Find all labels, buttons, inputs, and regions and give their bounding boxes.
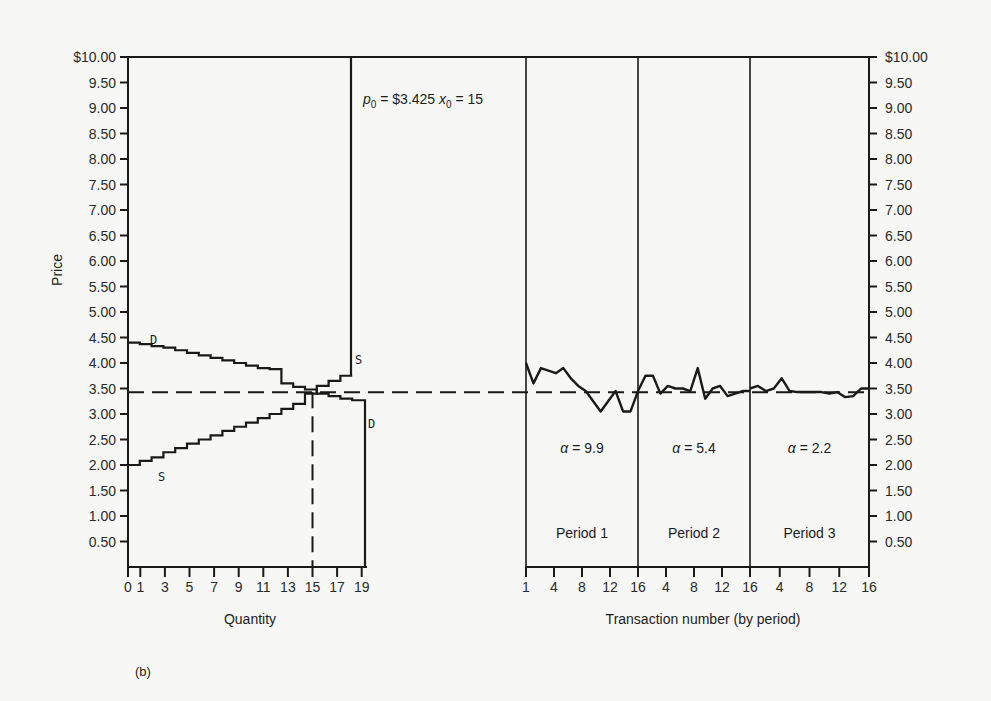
left-tick-label: 5.00 [89, 304, 116, 320]
transaction-tick-label: 1 [522, 579, 530, 595]
right-tick-label: 4.50 [885, 330, 912, 346]
transaction-price-series [526, 363, 869, 411]
left-tick-label: 1.00 [89, 508, 116, 524]
transaction-tick-label: 8 [578, 579, 586, 595]
left-tick-label: 6.00 [89, 253, 116, 269]
chart-frame [128, 57, 877, 567]
transaction-x-axis: 1481216481216481216 [522, 567, 877, 595]
right-tick-label: 7.00 [885, 202, 912, 218]
quantity-tick-label: 9 [235, 579, 243, 595]
transaction-tick-label: 4 [662, 579, 670, 595]
left-tick-label: 6.50 [89, 228, 116, 244]
supply-demand-curves [128, 57, 869, 567]
left-tick-label: $10.00 [73, 49, 116, 65]
right-tick-label: 5.50 [885, 279, 912, 295]
right-tick-label: 4.00 [885, 355, 912, 371]
transaction-tick-label: 12 [714, 579, 730, 595]
figure-caption: (b) [135, 664, 151, 679]
quantity-tick-label: 15 [305, 579, 321, 595]
left-tick-label: 5.50 [89, 279, 116, 295]
transaction-tick-label: 16 [742, 579, 758, 595]
right-tick-label: 9.00 [885, 100, 912, 116]
quantity-tick-label: 3 [161, 579, 169, 595]
left-tick-label: 9.50 [89, 75, 116, 91]
quantity-tick-label: 1 [136, 579, 144, 595]
period-3-alpha: α = 2.2 [788, 440, 832, 456]
quantity-tick-label: 11 [256, 579, 271, 595]
left-tick-label: 4.50 [89, 330, 116, 346]
quantity-tick-label: 7 [210, 579, 218, 595]
period-3-label: Period 3 [783, 525, 835, 541]
quantity-tick-label: 19 [354, 579, 370, 595]
right-tick-label: 6.00 [885, 253, 912, 269]
left-tick-label: 9.00 [89, 100, 116, 116]
left-tick-label: 2.00 [89, 457, 116, 473]
left-tick-label: 4.00 [89, 355, 116, 371]
transaction-tick-label: 4 [550, 579, 558, 595]
quantity-tick-label: 0 [124, 579, 132, 595]
right-tick-label: 3.00 [885, 406, 912, 422]
transaction-tick-label: 16 [861, 579, 877, 595]
period-1-label: Period 1 [556, 525, 608, 541]
right-tick-label: 1.00 [885, 508, 912, 524]
transaction-tick-label: 12 [602, 579, 618, 595]
right-tick-label: 8.50 [885, 126, 912, 142]
period-2-alpha: α = 5.4 [672, 440, 716, 456]
period-1-trace [526, 363, 638, 411]
right-y-axis: $10.009.509.008.508.007.507.006.506.005.… [869, 49, 928, 550]
chart-labels: QuantityTransaction number (by period)Pr… [49, 91, 836, 627]
price-axis-title: Price [49, 254, 65, 286]
transaction-axis-title: Transaction number (by period) [606, 611, 801, 627]
supply-label-right: S [355, 353, 362, 367]
left-tick-label: 7.50 [89, 177, 116, 193]
left-tick-label: 3.00 [89, 406, 116, 422]
left-tick-label: 8.50 [89, 126, 116, 142]
right-tick-label: 0.50 [885, 534, 912, 550]
period-2-label: Period 2 [668, 525, 720, 541]
period-1-alpha: α = 9.9 [560, 440, 604, 456]
quantity-tick-label: 5 [186, 579, 194, 595]
right-tick-label: $10.00 [885, 49, 928, 65]
left-tick-label: 3.50 [89, 381, 116, 397]
left-y-axis: $10.009.509.008.508.007.507.006.506.005.… [73, 49, 128, 550]
right-tick-label: 9.50 [885, 75, 912, 91]
supply-label-bottom: S [158, 470, 165, 484]
transaction-tick-label: 16 [630, 579, 646, 595]
left-tick-label: 2.50 [89, 432, 116, 448]
right-tick-label: 2.50 [885, 432, 912, 448]
left-tick-label: 0.50 [89, 534, 116, 550]
left-tick-label: 8.00 [89, 151, 116, 167]
transaction-tick-label: 8 [806, 579, 814, 595]
transaction-tick-label: 8 [690, 579, 698, 595]
right-tick-label: 8.00 [885, 151, 912, 167]
right-tick-label: 1.50 [885, 483, 912, 499]
demand-label-right: D [368, 417, 375, 431]
quantity-x-axis: 0135791113151719 [124, 567, 370, 595]
right-tick-label: 3.50 [885, 381, 912, 397]
quantity-tick-label: 13 [280, 579, 296, 595]
quantity-tick-label: 17 [329, 579, 345, 595]
quantity-axis-title: Quantity [224, 611, 276, 627]
right-tick-label: 7.50 [885, 177, 912, 193]
chart-canvas: $10.009.509.008.508.007.507.006.506.005.… [0, 0, 991, 701]
left-tick-label: 7.00 [89, 202, 116, 218]
period-2-trace [638, 368, 750, 399]
left-tick-label: 1.50 [89, 483, 116, 499]
transaction-tick-label: 12 [831, 579, 847, 595]
demand-label-top: D [150, 333, 157, 347]
equilibrium-annotation: p0 = $3.425 x0 = 15 [362, 91, 483, 110]
right-tick-label: 6.50 [885, 228, 912, 244]
supply-curve [128, 57, 352, 465]
period-3-trace [750, 378, 869, 397]
right-tick-label: 5.00 [885, 304, 912, 320]
right-tick-label: 2.00 [885, 457, 912, 473]
transaction-tick-label: 4 [776, 579, 784, 595]
